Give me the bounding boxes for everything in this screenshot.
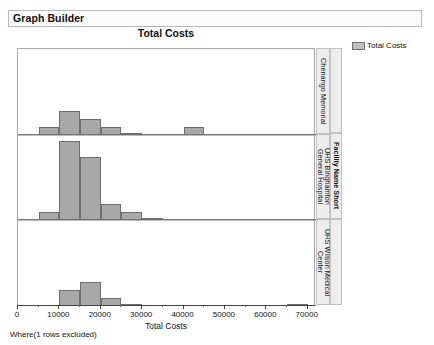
x-tick-minor (120, 305, 121, 307)
facet-panel[interactable] (18, 220, 316, 306)
x-tick-minor (203, 305, 204, 307)
chart-title: Total Costs (17, 27, 315, 39)
legend-label-total-costs: Total Costs (367, 41, 407, 50)
x-tick-label: 30000 (130, 310, 152, 319)
histogram-bar[interactable] (59, 141, 80, 221)
x-tick-label: 50000 (213, 310, 235, 319)
histogram-bar[interactable] (59, 111, 80, 135)
histogram-bar[interactable] (59, 290, 80, 306)
x-tick-minor (79, 305, 80, 307)
graph-builder-window: Graph Builder Total Costs 01000020000300… (0, 0, 434, 345)
legend[interactable]: Total Costs (352, 41, 407, 50)
facet-axis-title: Facility Name Short (330, 133, 342, 219)
histogram-bar[interactable] (80, 119, 101, 135)
x-tick-label: 10000 (47, 310, 69, 319)
x-tick (307, 305, 308, 309)
x-tick-minor (38, 305, 39, 307)
x-tick-label: 0 (15, 310, 19, 319)
x-tick (17, 305, 18, 309)
facet-label-cell[interactable]: UHS Binghamton General Hospital (316, 134, 330, 220)
facet-panel[interactable] (18, 49, 316, 135)
facet-panel[interactable] (18, 135, 316, 221)
histogram-bar[interactable] (80, 157, 101, 221)
x-tick-minor (162, 305, 163, 307)
x-tick (58, 305, 59, 309)
filter-footer: Where(1 rows excluded) (10, 330, 97, 339)
legend-swatch-total-costs (352, 42, 365, 50)
x-axis-line (17, 305, 315, 306)
histogram-bar[interactable] (184, 127, 205, 135)
facet-axis-title-text: Facility Name Short (332, 142, 341, 209)
panel-separator (18, 135, 316, 136)
histogram-bar[interactable] (101, 204, 122, 220)
x-tick-label: 60000 (254, 310, 276, 319)
facet-label-strip: Chenango MemorialUHS Binghamton General … (316, 48, 330, 305)
histogram-bar[interactable] (101, 127, 122, 135)
window-title: Graph Builder (13, 12, 84, 24)
x-tick-minor (286, 305, 287, 307)
x-tick (183, 305, 184, 309)
facet-axis-filler-bottom (330, 219, 342, 305)
x-tick (100, 305, 101, 309)
plot-frame[interactable] (17, 48, 315, 305)
histogram-bar[interactable] (121, 212, 142, 220)
x-tick (141, 305, 142, 309)
facet-label-cell[interactable]: Chenango Memorial (316, 48, 330, 134)
histogram-bar[interactable] (80, 282, 101, 306)
histogram-bar[interactable] (39, 212, 60, 220)
facet-label-text: UHS Wilson Medical Center (316, 229, 329, 296)
x-tick-label: 70000 (296, 310, 318, 319)
x-tick-minor (245, 305, 246, 307)
x-tick-label: 40000 (171, 310, 193, 319)
facet-label-cell[interactable]: UHS Wilson Medical Center (316, 219, 330, 305)
x-tick-label: 20000 (89, 310, 111, 319)
histogram-bar[interactable] (39, 127, 60, 135)
facet-label-text: Chenango Memorial (320, 58, 327, 124)
facet-label-text: UHS Binghamton General Hospital (316, 148, 329, 205)
panel-separator (18, 220, 316, 221)
x-tick (224, 305, 225, 309)
facet-axis-filler-top (330, 48, 342, 133)
x-tick (265, 305, 266, 309)
window-title-bar[interactable]: Graph Builder (8, 10, 422, 27)
